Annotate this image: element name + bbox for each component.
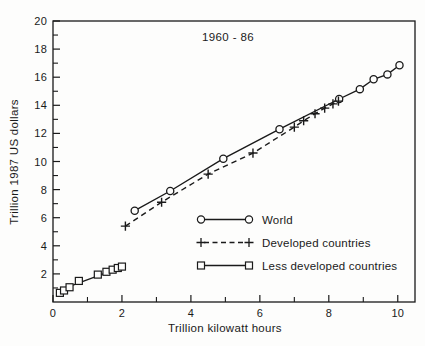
y-tick-label: 18 <box>34 43 47 55</box>
world-marker <box>396 62 403 69</box>
y-tick-label: 12 <box>34 127 47 139</box>
less-developed-countries-marker <box>118 263 125 270</box>
legend: World Developed countries Less developed… <box>196 208 397 277</box>
less-developed-countries-legend-marker-icon <box>196 258 254 273</box>
y-tick-label: 6 <box>41 212 47 224</box>
less-developed-countries-marker <box>66 284 73 291</box>
x-tick-label: 10 <box>391 307 404 319</box>
world-marker <box>356 86 363 93</box>
chart-figure: 02468102468101214161820 1960 - 86 Trilli… <box>0 0 425 346</box>
world-marker <box>370 76 377 83</box>
world-legend-marker-icon <box>196 212 254 227</box>
legend-label-world: World <box>262 214 293 226</box>
y-tick-label: 2 <box>41 268 47 280</box>
world-marker <box>131 207 138 214</box>
legend-item-less-developed-countries: Less developed countries <box>196 254 397 277</box>
x-tick-label: 2 <box>119 307 125 319</box>
x-tick-label: 6 <box>257 307 263 319</box>
y-tick-label: 20 <box>34 15 47 27</box>
developed-countries-marker <box>204 170 213 179</box>
x-tick-label: 4 <box>188 307 194 319</box>
x-tick-label: 8 <box>326 307 332 319</box>
legend-label-less-developed-countries: Less developed countries <box>262 260 397 272</box>
developed-countries-marker <box>157 198 166 207</box>
y-tick-label: 10 <box>34 156 47 168</box>
world-marker <box>220 155 227 162</box>
legend-label-developed-countries: Developed countries <box>262 237 371 249</box>
developed-countries-marker <box>121 222 130 231</box>
legend-item-developed-countries: Developed countries <box>196 231 397 254</box>
y-tick-label: 8 <box>41 184 47 196</box>
x-tick-label: 0 <box>50 307 56 319</box>
y-tick-label: 16 <box>34 71 47 83</box>
less-developed-countries-marker <box>94 271 101 278</box>
developed-countries-marker <box>310 109 319 118</box>
y-tick-label: 4 <box>41 240 47 252</box>
y-axis-title: Trillion 1987 US dollars <box>8 99 20 225</box>
y-tick-label: 14 <box>34 99 47 111</box>
developed-countries-marker <box>248 148 257 157</box>
world-marker <box>276 126 283 133</box>
developed-countries-legend-marker-icon <box>196 235 254 250</box>
plot-area: 02468102468101214161820 <box>0 0 425 346</box>
x-axis-title: Trillion kilowatt hours <box>140 322 310 334</box>
world-marker <box>167 187 174 194</box>
legend-item-world: World <box>196 208 397 231</box>
world-marker <box>384 71 391 78</box>
developed-countries-marker <box>299 116 308 125</box>
less-developed-countries-marker <box>75 277 82 284</box>
chart-title: 1960 - 86 <box>163 31 293 43</box>
